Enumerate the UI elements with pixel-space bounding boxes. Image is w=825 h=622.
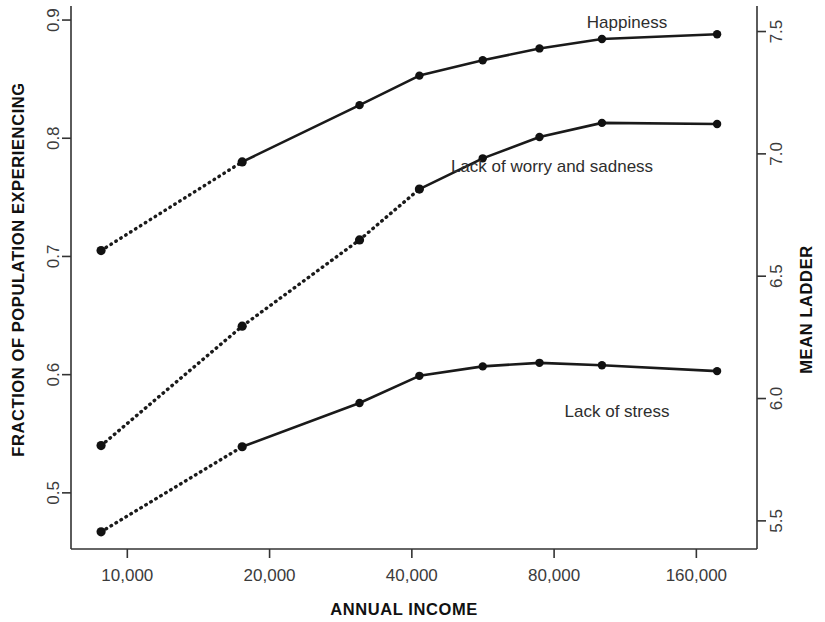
data-point-marker <box>479 362 487 370</box>
series-dotted-segment <box>101 447 242 532</box>
data-point-marker <box>598 361 606 369</box>
y-axis-tick-label: 0.7 <box>45 245 64 269</box>
data-point-marker <box>355 101 363 109</box>
x-axis-title: ANNUAL INCOME <box>330 600 478 618</box>
series-dotted-segment <box>101 189 419 445</box>
y2-axis-tick-label: 7.0 <box>768 142 787 166</box>
y2-axis-title: MEAN LADDER <box>797 245 815 374</box>
x-axis-tick-label: 20,000 <box>244 566 296 585</box>
data-point-marker <box>238 322 247 331</box>
data-point-marker <box>535 359 543 367</box>
x-axis-tick-label: 80,000 <box>528 566 580 585</box>
data-point-marker <box>415 71 423 79</box>
data-point-marker <box>713 367 721 375</box>
series-solid-segment <box>242 34 717 162</box>
data-point-marker <box>535 133 543 141</box>
chart-figure: 0.50.60.70.80.95.56.06.57.07.510,00020,0… <box>0 0 825 622</box>
series-label-lack-of-worry-and-sadness: Lack of worry and sadness <box>451 157 653 176</box>
data-point-marker <box>479 56 487 64</box>
data-point-marker <box>713 30 721 38</box>
y2-axis-tick-label: 7.5 <box>768 20 787 44</box>
axis-titles-group: FRACTION OF POPULATION EXPERIENCINGMEAN … <box>9 82 815 618</box>
y2-axis-tick-label: 6.5 <box>768 264 787 288</box>
data-point-marker <box>238 442 247 451</box>
y-axis-tick-label: 0.9 <box>45 8 64 32</box>
x-axis-tick-label: 160,000 <box>666 566 727 585</box>
series-label-lack-of-stress: Lack of stress <box>565 402 670 421</box>
data-point-marker <box>713 120 721 128</box>
data-point-marker <box>535 44 543 52</box>
data-point-marker <box>96 441 105 450</box>
data-point-marker <box>355 399 363 407</box>
x-axis-tick-label: 40,000 <box>386 566 438 585</box>
series-dotted-segment <box>101 162 242 251</box>
y-axis-tick-label: 0.8 <box>45 126 64 150</box>
y-axis-title: FRACTION OF POPULATION EXPERIENCING <box>9 82 27 457</box>
data-point-marker <box>96 246 105 255</box>
y2-axis-tick-label: 6.0 <box>768 387 787 411</box>
data-point-marker <box>238 157 247 166</box>
y2-axis-tick-label: 5.5 <box>768 509 787 533</box>
data-point-marker <box>598 119 606 127</box>
chart-canvas: 0.50.60.70.80.95.56.06.57.07.510,00020,0… <box>0 0 825 622</box>
series-label-happiness: Happiness <box>587 13 667 32</box>
x-axis-tick-label: 10,000 <box>101 566 153 585</box>
data-point-marker <box>96 527 105 536</box>
data-point-marker <box>415 372 423 380</box>
y-axis-tick-label: 0.5 <box>45 481 64 505</box>
data-point-marker <box>415 184 424 193</box>
series-labels-group: HappinessLack of worry and sadnessLack o… <box>451 13 670 421</box>
series-solid-segment <box>419 123 717 189</box>
data-point-marker <box>598 35 606 43</box>
series-group <box>96 30 721 536</box>
data-point-marker <box>355 235 364 244</box>
y-axis-tick-label: 0.6 <box>45 363 64 387</box>
